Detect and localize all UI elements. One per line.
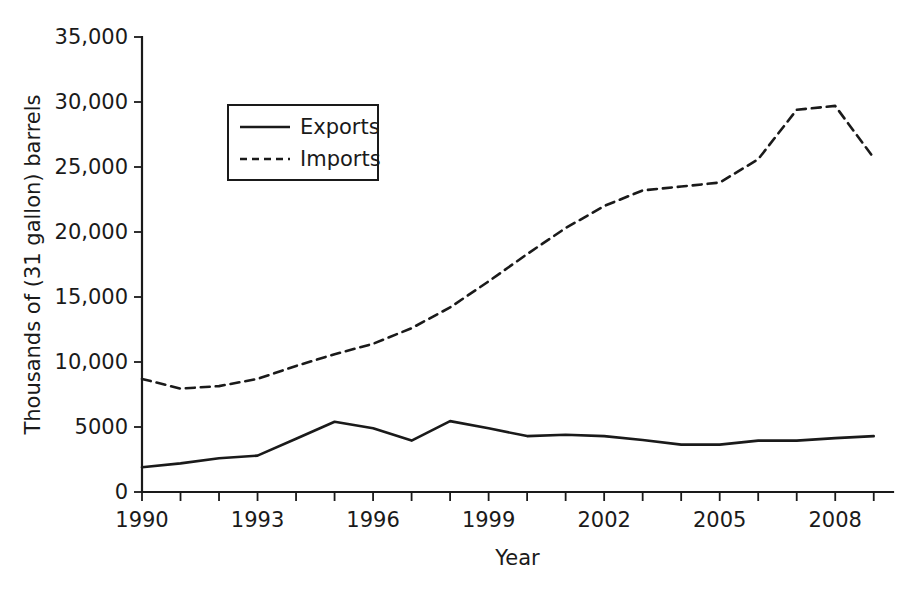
x-tick-label: 2002	[577, 508, 630, 532]
y-tick-label: 30,000	[55, 90, 128, 114]
x-tick-label: 2005	[693, 508, 746, 532]
y-tick-label: 10,000	[55, 350, 128, 374]
x-tick-label: 1996	[346, 508, 399, 532]
line-chart: 0500010,00015,00020,00025,00030,00035,00…	[0, 0, 924, 596]
y-tick-label: 15,000	[55, 285, 128, 309]
y-tick-label: 20,000	[55, 220, 128, 244]
y-tick-label: 0	[115, 480, 128, 504]
y-tick-label: 5000	[75, 415, 128, 439]
y-tick-label: 35,000	[55, 25, 128, 49]
x-tick-label: 2008	[809, 508, 862, 532]
y-axis-title: Thousands of (31 gallon) barrels	[21, 94, 45, 435]
legend-label-imports: Imports	[300, 147, 381, 171]
x-axis-title: Year	[494, 546, 540, 570]
y-axis-ticks	[134, 37, 142, 492]
series-line-exports	[142, 421, 874, 467]
x-tick-label: 1999	[462, 508, 515, 532]
y-tick-label: 25,000	[55, 155, 128, 179]
chart-legend: ExportsImports	[228, 105, 381, 180]
legend-label-exports: Exports	[300, 115, 380, 139]
x-axis-tick-labels: 1990199319961999200220052008	[115, 508, 862, 532]
chart-figure: 0500010,00015,00020,00025,00030,00035,00…	[0, 0, 924, 596]
x-tick-label: 1990	[115, 508, 168, 532]
x-tick-label: 1993	[231, 508, 284, 532]
x-axis-ticks	[142, 492, 874, 501]
y-axis-tick-labels: 0500010,00015,00020,00025,00030,00035,00…	[55, 25, 128, 504]
